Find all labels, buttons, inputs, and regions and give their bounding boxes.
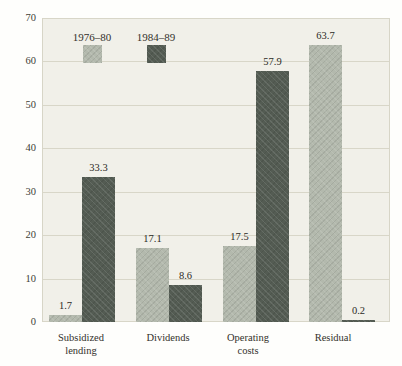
plot-area: 1.717.117.563.733.38.657.90.2 — [42, 18, 390, 322]
bar-1976–80-Residual — [309, 45, 342, 322]
y-tick-label-0: 0 — [6, 316, 36, 328]
category-label-line: Subsidized — [58, 331, 104, 344]
y-tick-label-10: 10 — [6, 273, 36, 285]
category-label-line: Residual — [315, 331, 352, 344]
value-label: 33.3 — [89, 162, 107, 173]
bar-1984–89-Dividends — [169, 285, 202, 322]
bar-1984–89-Residual — [342, 320, 375, 322]
category-label-line: lending — [58, 344, 104, 357]
legend-item-1976–80: 1976–80 — [57, 31, 127, 63]
category-label-Subsidized lending: Subsidizedlending — [58, 331, 104, 357]
category-label-Operating costs: Operatingcosts — [227, 331, 269, 357]
category-label-line: Dividends — [146, 331, 189, 344]
legend-item-1984–89: 1984–89 — [121, 31, 191, 63]
gridline-70 — [43, 18, 389, 19]
y-tick-label-40: 40 — [6, 142, 36, 154]
category-label-line: costs — [227, 344, 269, 357]
value-label: 63.7 — [316, 30, 334, 41]
value-label: 0.2 — [352, 305, 365, 316]
value-label: 17.1 — [143, 233, 161, 244]
value-label: 8.6 — [179, 270, 192, 281]
legend-swatch-1984–89 — [147, 45, 166, 63]
bar-1976–80-Operating costs — [223, 246, 256, 322]
y-tick-label-50: 50 — [6, 99, 36, 111]
legend-label: 1976–80 — [57, 31, 127, 43]
value-label: 57.9 — [263, 56, 281, 67]
y-tick-label-20: 20 — [6, 229, 36, 241]
legend-swatch-1976–80 — [83, 45, 102, 63]
value-label: 17.5 — [230, 231, 248, 242]
bar-1984–89-Operating costs — [256, 71, 289, 322]
category-label-Dividends: Dividends — [146, 331, 189, 344]
figure-bar-chart: 1.717.117.563.733.38.657.90.2 0102030405… — [0, 0, 402, 366]
category-label-Residual: Residual — [315, 331, 352, 344]
y-tick-label-60: 60 — [6, 55, 36, 67]
category-label-line: Operating — [227, 331, 269, 344]
bar-1976–80-Subsidized lending — [49, 315, 82, 322]
y-tick-label-30: 30 — [6, 186, 36, 198]
bar-1984–89-Subsidized lending — [82, 177, 115, 322]
y-tick-label-70: 70 — [6, 12, 36, 24]
legend-label: 1984–89 — [121, 31, 191, 43]
value-label: 1.7 — [59, 300, 72, 311]
bar-1976–80-Dividends — [136, 248, 169, 322]
